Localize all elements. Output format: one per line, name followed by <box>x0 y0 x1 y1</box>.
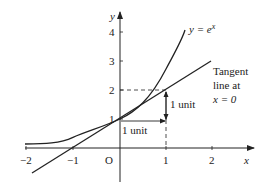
exp-tangent-diagram: −2 −1 1 2 O x 1 2 3 4 y 1 unit 1 unit y … <box>0 0 265 186</box>
curve-label-text: y = e <box>188 23 212 35</box>
y-tick-label: 4 <box>109 26 115 38</box>
y-tick-label: 2 <box>109 84 115 96</box>
origin-label: O <box>105 154 113 166</box>
run-label: 1 unit <box>122 124 147 136</box>
tangent-label-line-3: x = 0 <box>212 93 237 105</box>
curve-label-exponent: x <box>211 22 216 31</box>
y-tick-label: 3 <box>109 55 115 67</box>
tangent-label-line-1: Tangent <box>213 65 248 77</box>
x-tick-label: −1 <box>67 154 79 166</box>
curve-label: y = ex <box>188 22 216 35</box>
y-axis-label: y <box>109 10 115 22</box>
tangent-line <box>32 61 211 173</box>
x-tick-label: −2 <box>20 154 32 166</box>
x-tick-label: 2 <box>209 154 215 166</box>
rise-label: 1 unit <box>170 98 195 110</box>
tangent-label-line-2: line at <box>213 79 240 91</box>
x-axis-label: x <box>243 154 249 166</box>
x-tick-label: 1 <box>163 154 169 166</box>
